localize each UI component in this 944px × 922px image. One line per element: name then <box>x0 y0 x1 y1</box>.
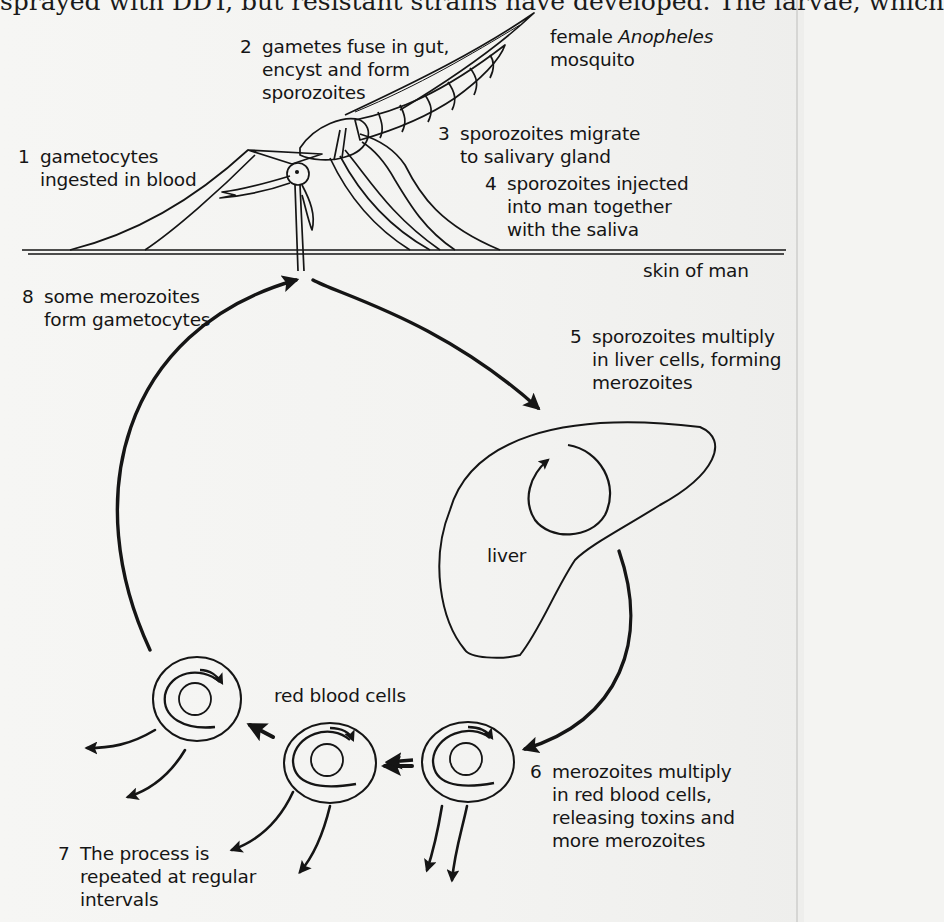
step-5-label: 5sporozoites multiply in liver cells, fo… <box>570 325 781 394</box>
red-blood-cell-1 <box>153 657 241 741</box>
red-blood-cell-2 <box>284 723 376 803</box>
step-8-label: 8some merozoites form gametocytes <box>22 285 210 331</box>
skin-line <box>22 250 786 254</box>
skin-label: skin of man <box>643 259 749 282</box>
rbc-release-arrow <box>388 760 413 762</box>
step-2-label: 2gametes fuse in gut, encyst and form sp… <box>240 35 449 104</box>
red-blood-cell-3 <box>422 722 514 802</box>
step-1-label: 1gametocytes ingested in blood <box>18 145 197 191</box>
liver-label: liver <box>487 544 526 567</box>
mosquito-label: female Anopheles mosquito <box>550 25 713 71</box>
step-6-label: 6merozoites multiply in red blood cells,… <box>530 760 735 852</box>
red-blood-cells-label: red blood cells <box>274 684 406 707</box>
liver-illustration <box>439 422 715 657</box>
step-3-label: 3sporozoites migrate to salivary gland <box>438 122 640 168</box>
step-4-label: 4sporozoites injected into man together … <box>485 172 688 241</box>
step-7-label: 7The process is repeated at regular inte… <box>58 842 256 911</box>
